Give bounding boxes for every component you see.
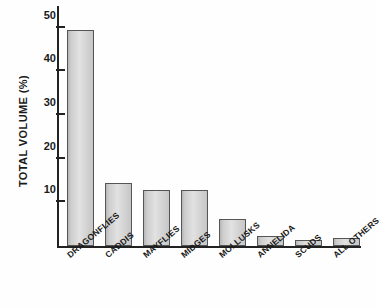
bar-slot	[143, 6, 170, 246]
y-axis-tick-label: 40	[30, 52, 56, 64]
bar-series	[57, 6, 361, 246]
y-axis-tick-label: 20	[30, 140, 56, 152]
bar-slot	[219, 6, 246, 246]
bar-slot	[257, 6, 284, 246]
y-axis-tick-label: 50	[30, 9, 56, 21]
bar-slot	[67, 6, 94, 246]
bar-slot	[295, 6, 322, 246]
bar-slot	[181, 6, 208, 246]
bar	[67, 30, 94, 246]
bar-slot	[333, 6, 360, 246]
plot-area: 1020304050	[57, 6, 361, 248]
y-axis-title: TOTAL VOLUME (%)	[17, 46, 29, 216]
y-axis-tick-label: 10	[30, 183, 56, 195]
y-axis-tick-label: 30	[30, 96, 56, 108]
bar-slot	[105, 6, 132, 246]
x-axis-line	[57, 246, 361, 248]
